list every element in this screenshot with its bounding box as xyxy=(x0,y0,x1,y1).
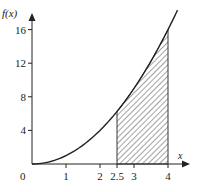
x-tick-label: 3 xyxy=(131,170,137,182)
y-tick-label: 16 xyxy=(15,24,27,36)
y-tick-label: 12 xyxy=(15,57,26,69)
x-axis-label: x xyxy=(177,150,183,161)
x-tick-label: 2 xyxy=(97,170,103,182)
x-tick-label: 4 xyxy=(165,170,171,182)
area-under-curve-chart: 0122.534481216 f(x) x xyxy=(0,0,199,192)
y-tick-label: 4 xyxy=(21,124,27,136)
shaded-region xyxy=(117,30,168,164)
y-axis-label: f(x) xyxy=(2,7,18,20)
x-tick-label: 2.5 xyxy=(110,170,124,182)
x-tick-label: 0 xyxy=(20,170,26,182)
y-tick-label: 8 xyxy=(21,91,27,103)
x-tick-label: 1 xyxy=(63,170,69,182)
